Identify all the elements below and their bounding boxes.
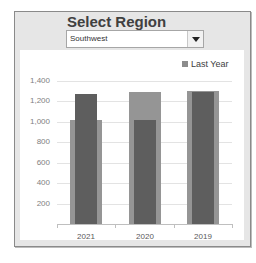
y-axis-label: 1,400	[22, 76, 50, 85]
y-axis-label: 800	[22, 137, 50, 146]
chart-legend: Last Year	[182, 59, 229, 69]
x-axis	[57, 224, 232, 225]
page-title: Select Region	[67, 13, 166, 30]
y-axis-label: 1,200	[22, 96, 50, 105]
x-axis-tick	[57, 224, 58, 228]
y-axis-label: 200	[22, 199, 50, 208]
region-dropdown[interactable]: Southwest	[66, 30, 204, 48]
legend-swatch-icon	[182, 61, 188, 67]
bar-last-year[interactable]	[75, 94, 97, 224]
region-dropdown-value: Southwest	[70, 34, 107, 43]
legend-label: Last Year	[191, 59, 229, 69]
y-axis-label: 1,000	[22, 117, 50, 126]
x-axis-tick	[115, 224, 116, 228]
gridline	[57, 81, 232, 82]
bar-last-year[interactable]	[192, 92, 214, 224]
x-axis-label: 2019	[183, 232, 223, 241]
x-axis-label: 2021	[66, 232, 106, 241]
x-axis-tick	[232, 224, 233, 228]
y-axis-label: 400	[22, 178, 50, 187]
x-axis-tick	[174, 224, 175, 228]
y-axis-label: 600	[22, 158, 50, 167]
bar-last-year[interactable]	[134, 120, 156, 224]
x-axis-label: 2020	[125, 232, 165, 241]
chevron-down-icon[interactable]	[187, 31, 203, 47]
